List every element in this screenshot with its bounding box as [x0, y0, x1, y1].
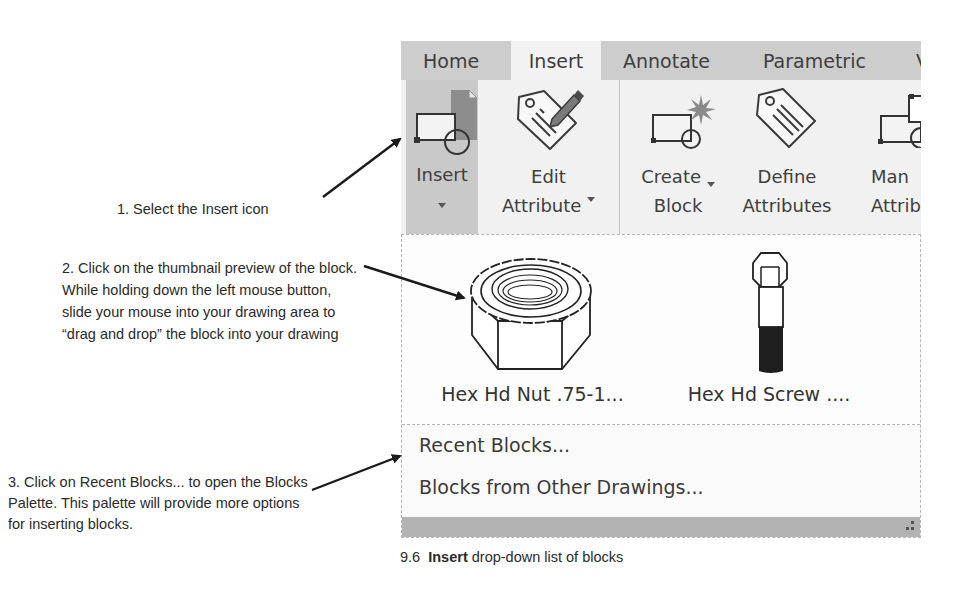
ribbon-tab-strip: Home Insert Annotate Parametric V: [401, 41, 921, 80]
insert-button-label: Insert: [406, 160, 478, 189]
block-name: Hex Hd Nut .75-1...: [420, 383, 645, 405]
define-attributes-label-1: Define: [733, 162, 841, 191]
chevron-down-icon[interactable]: [438, 203, 446, 208]
callout-step-3: 3. Click on Recent Blocks... to open the…: [8, 472, 308, 535]
block-thumbnail-hex-nut[interactable]: Hex Hd Nut .75-1...: [420, 235, 645, 424]
panel-separator: [619, 80, 620, 234]
tab-view-truncated[interactable]: V: [916, 41, 921, 80]
insert-button[interactable]: Insert: [406, 80, 478, 234]
manage-attributes-label-2: Attrib: [871, 191, 921, 220]
manage-attributes-icon: [877, 94, 921, 148]
define-attributes-button[interactable]: Define Attributes: [733, 80, 841, 234]
arrow-step-1: [323, 139, 400, 197]
tab-parametric[interactable]: Parametric: [763, 41, 866, 80]
block-gallery: Hex Hd Nut .75-1... Hex Hd Screw ....: [402, 235, 920, 425]
create-block-label-2: Block: [623, 191, 733, 220]
insert-block-icon: [411, 88, 479, 156]
block-thumbnail-hex-screw[interactable]: Hex Hd Screw ....: [664, 235, 874, 424]
hex-screw-icon: [749, 249, 793, 375]
manage-attributes-label-1: Man: [871, 162, 921, 191]
create-block-label-1: Create: [641, 166, 701, 187]
block-name: Hex Hd Screw ....: [664, 383, 874, 405]
arrow-step-3: [312, 456, 400, 490]
callout-step-2: 2. Click on the thumbnail preview of the…: [62, 257, 362, 345]
hex-nut-icon: [462, 249, 602, 375]
resize-grip-icon[interactable]: [904, 521, 914, 533]
tab-annotate[interactable]: Annotate: [623, 41, 710, 80]
tab-insert[interactable]: Insert: [511, 41, 601, 80]
manage-attributes-button[interactable]: Man Attrib: [841, 80, 921, 234]
insert-dropdown: Hex Hd Nut .75-1... Hex Hd Screw .... Re…: [401, 234, 921, 538]
block-panel: Insert Edit Attribute: [401, 80, 921, 234]
figure-number: 9.6: [400, 549, 420, 565]
chevron-down-icon[interactable]: [707, 182, 715, 187]
define-attributes-label-2: Attributes: [733, 191, 841, 220]
define-attributes-icon: [755, 87, 819, 149]
edit-attribute-label-1: Edit: [481, 162, 616, 191]
chevron-down-icon[interactable]: [587, 197, 595, 202]
figure-caption-text: drop-down list of blocks: [472, 549, 624, 565]
figure-caption: 9.6 Insert drop-down list of blocks: [400, 549, 623, 565]
create-block-icon: [651, 93, 717, 149]
figure-caption-bold: Insert: [428, 549, 468, 565]
tab-home[interactable]: Home: [423, 41, 479, 80]
dropdown-footer: [402, 517, 920, 537]
edit-attribute-label-2: Attribute: [502, 195, 581, 216]
create-block-button[interactable]: Create Block: [623, 80, 733, 234]
ribbon: Home Insert Annotate Parametric V Insert: [401, 41, 921, 540]
recent-blocks-menu-item[interactable]: Recent Blocks...: [419, 434, 570, 456]
callout-step-1: 1. Select the Insert icon: [117, 199, 269, 219]
edit-attribute-button[interactable]: Edit Attribute: [481, 80, 616, 234]
blocks-from-other-drawings-menu-item[interactable]: Blocks from Other Drawings...: [419, 476, 704, 498]
edit-attribute-icon: [514, 85, 584, 155]
